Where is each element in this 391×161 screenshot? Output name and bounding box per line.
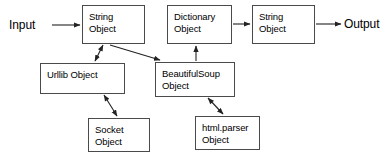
diagram-canvas: Input Output String Object Dictionary Ob… xyxy=(0,0,391,161)
node-dictionary-object[interactable]: Dictionary Object xyxy=(167,5,232,44)
node-beautifulsoup-object[interactable]: BeautifulSoup Object xyxy=(155,62,235,97)
edge-string-left-to-urllib xyxy=(95,45,103,61)
node-socket-object[interactable]: Socket Object xyxy=(88,118,150,152)
edge-beautifulsoup-to-htmlparser xyxy=(208,98,223,114)
output-label: Output xyxy=(344,18,379,31)
edge-string-left-to-beautifulsoup xyxy=(110,45,160,60)
node-string-object-right[interactable]: String Object xyxy=(252,5,315,44)
input-label: Input xyxy=(9,19,35,32)
node-string-object-left[interactable]: String Object xyxy=(82,5,145,44)
edge-urllib-to-socket xyxy=(104,95,117,116)
node-htmlparser-object[interactable]: html.parser Object xyxy=(195,116,260,150)
node-urllib-object[interactable]: Urllib Object xyxy=(40,63,125,94)
